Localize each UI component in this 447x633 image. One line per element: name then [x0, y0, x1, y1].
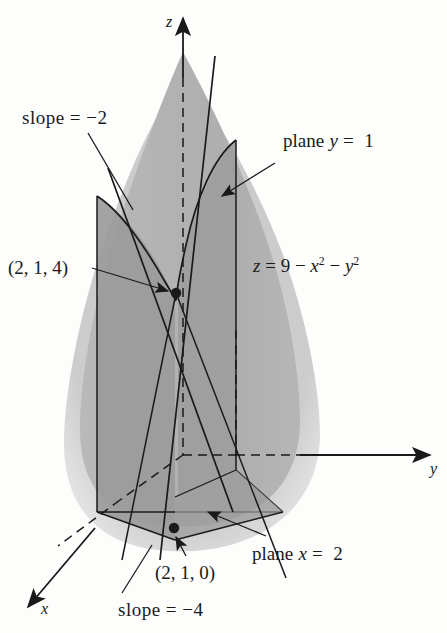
- leader-slope-minus-4: [122, 545, 152, 593]
- plane-y-eq: =: [343, 130, 354, 151]
- slope-minus-4-label: slope = −4: [118, 600, 204, 619]
- surface-equation-label: z = 9 − x2 − y2: [253, 256, 359, 275]
- z-axis-label: z: [166, 14, 172, 30]
- point-2-1-0-label: (2, 1, 0): [155, 563, 215, 582]
- leader-slope-minus-2: [88, 133, 133, 210]
- equation-minus1: −: [295, 255, 306, 276]
- diagram-svg: [0, 0, 447, 633]
- plane-x-word: plane: [252, 543, 293, 564]
- x-axis-label: x: [41, 601, 48, 617]
- point-2-1-4-label: (2, 1, 4): [8, 258, 68, 277]
- plane-y-var: y: [329, 130, 337, 151]
- slope-minus-2-label: slope = −2: [22, 108, 108, 127]
- plane-y-value: 1: [364, 130, 374, 151]
- plane-x-equals-2-label: plane x = 2: [252, 544, 343, 563]
- equation-minus2: −: [329, 255, 340, 276]
- plane-x-value: 2: [333, 543, 343, 564]
- plane-y-equals-1-label: plane y = 1: [283, 131, 374, 150]
- equation-exponent3: 2: [353, 255, 359, 268]
- y-axis-label: y: [430, 461, 437, 477]
- plane-x-eq: =: [312, 543, 323, 564]
- figure-canvas: z y x slope = −2 slope = −4 plane y = 1 …: [0, 0, 447, 633]
- x-axis: [28, 528, 95, 607]
- plane-y-word: plane: [283, 130, 324, 151]
- point-2-1-0-dot: [169, 523, 179, 533]
- equation-term1: 9: [281, 255, 291, 276]
- point-2-1-4-dot: [171, 288, 181, 298]
- equation-term2: x: [310, 255, 318, 276]
- plane-x-var: x: [298, 543, 306, 564]
- equation-equals: =: [265, 255, 276, 276]
